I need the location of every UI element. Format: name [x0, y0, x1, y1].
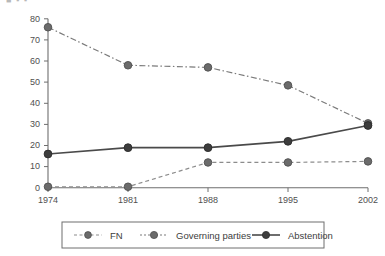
series-governing-parties [44, 23, 372, 127]
y-tick-label: 40 [30, 98, 40, 108]
y-tick-label: 70 [30, 35, 40, 45]
data-point [204, 159, 212, 167]
legend-label-abstention: Abstention [288, 230, 333, 241]
data-point [44, 150, 52, 158]
y-tick-label: 80 [30, 14, 40, 24]
x-axis-group: 1974 1981 1988 1995 2002 [38, 188, 378, 205]
y-tick-label: 50 [30, 77, 40, 87]
data-point [124, 144, 132, 152]
legend-label-governing-parties: Governing parties [176, 230, 251, 241]
series-abstention [44, 122, 372, 158]
data-point [204, 144, 212, 152]
legend-marker-abstention [262, 231, 269, 238]
x-tick-label: 1974 [38, 195, 58, 205]
y-axis-group: 80 70 60 50 40 30 20 10 0 [30, 14, 48, 193]
data-point [364, 122, 372, 130]
legend-marker-governing [150, 231, 157, 238]
data-point [124, 183, 132, 191]
chart-canvas: 80 70 60 50 40 30 20 10 0 [0, 0, 385, 256]
x-tick-label: 1981 [118, 195, 138, 205]
data-point [364, 158, 372, 166]
line-chart: ■ ▪ ▪ 80 70 60 50 40 30 20 10 0 [0, 0, 385, 256]
series-layer [44, 23, 372, 190]
data-point [284, 82, 292, 90]
data-point [284, 159, 292, 167]
x-tick-marks [48, 188, 368, 192]
data-point [284, 137, 292, 145]
data-point [44, 183, 52, 191]
series-fn [44, 158, 372, 191]
legend-marker-fn [85, 232, 92, 239]
y-tick-label: 10 [30, 161, 40, 171]
y-tick-label: 60 [30, 56, 40, 66]
y-tick-label: 20 [30, 140, 40, 150]
x-tick-label: 1988 [198, 195, 218, 205]
series-line [48, 27, 368, 123]
legend: FN Governing parties Abstention [62, 222, 333, 248]
legend-label-fn: FN [110, 230, 123, 241]
y-tick-marks [44, 19, 48, 167]
data-point [44, 23, 52, 31]
data-point [124, 61, 132, 69]
x-tick-label: 2002 [358, 195, 378, 205]
x-tick-label: 1995 [278, 195, 298, 205]
y-tick-label: 30 [30, 119, 40, 129]
y-tick-label: 0 [35, 183, 40, 193]
data-point [204, 64, 212, 72]
